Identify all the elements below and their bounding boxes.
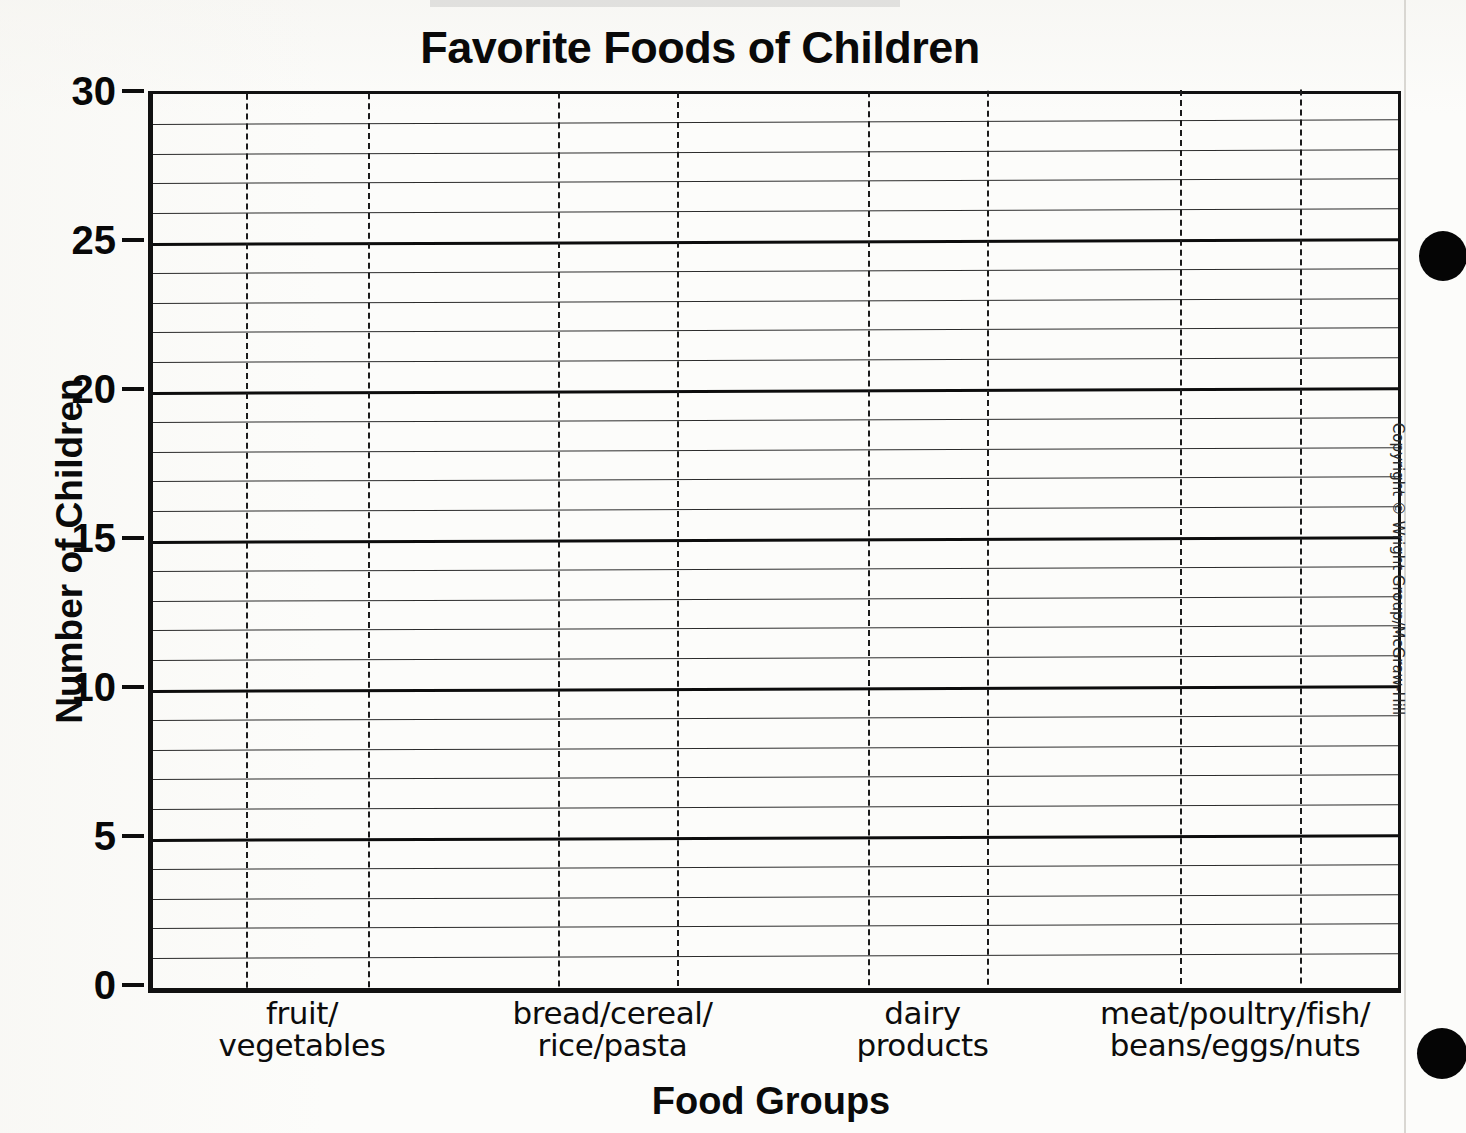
category-label-line2: beans/eggs/nuts: [1085, 1030, 1385, 1062]
gridline-minor: [153, 775, 1398, 781]
y-tick-mark-20: [122, 387, 144, 391]
x-category-label-2: bread/cereal/rice/pasta: [463, 998, 763, 1061]
y-tick-label-10: 10: [26, 665, 116, 710]
gridlines-group: [153, 89, 1398, 988]
category-label-line1: meat/poultry/fish/: [1100, 995, 1370, 1031]
gridline-minor: [153, 566, 1398, 572]
gridline-minor: [153, 506, 1398, 512]
copyright-notice: Copyright © Wright Group/McGraw-Hill: [1389, 379, 1407, 759]
y-tick-mark-5: [122, 834, 144, 838]
worksheet-page: Favorite Foods of Children Number of Chi…: [0, 0, 1466, 1133]
x-category-label-3: dairyproducts: [773, 998, 1073, 1061]
x-category-label-1: fruit/vegetables: [152, 998, 452, 1061]
bar-slot-guide-8: [1300, 90, 1302, 984]
bar-slot-guide-3: [558, 92, 560, 986]
bar-slot-guide-2: [368, 93, 370, 987]
gridline-minor: [153, 328, 1398, 334]
category-label-line1: dairy: [884, 995, 960, 1031]
chart-plot-area: [148, 91, 1401, 993]
bar-slot-guide-1: [246, 94, 248, 988]
y-tick-mark-30: [122, 89, 144, 93]
x-category-label-4: meat/poultry/fish/beans/eggs/nuts: [1085, 998, 1385, 1061]
bar-slot-guide-7: [1180, 90, 1182, 984]
y-tick-label-5: 5: [26, 814, 116, 859]
gridline-minor: [153, 179, 1398, 185]
y-tick-label-15: 15: [26, 516, 116, 561]
bar-slot-guide-5: [868, 91, 870, 985]
gridline-minor: [153, 357, 1398, 363]
gridline-major: [153, 536, 1398, 544]
y-tick-mark-0: [122, 983, 144, 987]
scan-smudge: [430, 0, 900, 7]
gridline-minor: [153, 715, 1398, 721]
y-tick-mark-10: [122, 685, 144, 689]
y-tick-label-0: 0: [26, 963, 116, 1008]
gridline-minor: [153, 894, 1398, 900]
gridline-minor: [153, 745, 1398, 751]
gridline-major: [153, 238, 1398, 246]
gridline-minor: [153, 596, 1398, 602]
gridline-minor: [153, 655, 1398, 661]
gridline-minor: [153, 924, 1398, 930]
gridline-minor: [153, 268, 1398, 274]
binder-punch-mark-top: [1419, 231, 1466, 281]
gridline-major: [153, 387, 1398, 395]
gridline-major: [153, 834, 1398, 842]
gridline-minor: [153, 626, 1398, 632]
bar-slot-guide-4: [677, 92, 679, 986]
category-label-line2: rice/pasta: [463, 1030, 763, 1062]
bar-slot-guide-6: [987, 91, 989, 985]
gridline-minor: [153, 208, 1398, 214]
binder-punch-mark-bottom: [1417, 1028, 1466, 1079]
gridline-minor: [153, 417, 1398, 423]
x-axis-title: Food Groups: [148, 1080, 1394, 1123]
page-title: Favorite Foods of Children: [0, 22, 1400, 74]
gridline-major: [153, 685, 1398, 693]
gridline-minor: [153, 119, 1398, 125]
gridline-minor: [153, 447, 1398, 453]
gridline-minor: [153, 804, 1398, 810]
category-label-line1: fruit/: [266, 995, 338, 1031]
gridline-minor: [153, 953, 1398, 959]
y-tick-label-30: 30: [26, 69, 116, 114]
y-tick-mark-25: [122, 238, 144, 242]
gridline-minor: [153, 149, 1398, 155]
gridline-minor: [153, 864, 1398, 870]
gridline-minor: [153, 298, 1398, 304]
category-label-line2: vegetables: [152, 1030, 452, 1062]
gridline-minor: [153, 477, 1398, 483]
y-tick-label-20: 20: [26, 367, 116, 412]
y-tick-label-25: 25: [26, 218, 116, 263]
category-label-line1: bread/cereal/: [512, 995, 712, 1031]
category-label-line2: products: [773, 1030, 1073, 1062]
y-tick-mark-15: [122, 536, 144, 540]
